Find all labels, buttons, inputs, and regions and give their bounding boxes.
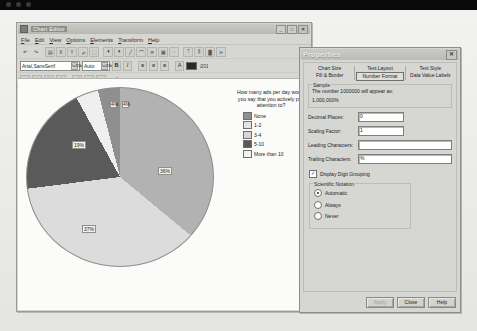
- bar-chart-icon[interactable]: ⬚: [89, 47, 99, 57]
- chart-legend[interactable]: How many ads per day would you say that …: [234, 89, 308, 159]
- spike-icon[interactable]: ⫼: [194, 47, 204, 57]
- menu-item-help[interactable]: Help: [148, 37, 159, 43]
- horizontal-bar-icon[interactable]: ⏵: [114, 47, 124, 57]
- grid-icon[interactable]: ▦: [158, 47, 168, 57]
- radio-never[interactable]: Never: [314, 212, 406, 220]
- legend-swatch-1-2: [243, 121, 252, 129]
- menu-bar: File Edit View Options Elements Transfor…: [17, 35, 311, 45]
- align-right-icon[interactable]: ≡: [160, 61, 169, 71]
- align-center-icon[interactable]: ≡: [149, 61, 158, 71]
- fill-color-swatch[interactable]: [186, 62, 197, 70]
- reference-line-icon[interactable]: ⍑: [183, 47, 193, 57]
- font-family-select[interactable]: Arial,SansSerif \u25be: [20, 61, 80, 71]
- sample-value: 1,000,000%: [312, 97, 448, 103]
- properties-dialog: Properties ✕ Chart Size Fill & Border Te…: [299, 47, 461, 313]
- legend-label-3-4: 3-4: [254, 132, 261, 138]
- pie-label-more-than-10[interactable]: 4%: [110, 101, 117, 108]
- trailing-characters-input[interactable]: %: [358, 154, 452, 164]
- mouse-cursor: [222, 308, 228, 310]
- pie-label-5-10[interactable]: 19%: [72, 141, 86, 149]
- bold-button[interactable]: B: [112, 61, 121, 71]
- legend-label-none: None: [254, 113, 266, 119]
- leading-characters-label: Leading Characters:: [308, 142, 358, 148]
- pie-chart[interactable]: 4% 4% 19% 36% 37%: [26, 87, 226, 272]
- redo-icon[interactable]: ↷: [31, 47, 41, 57]
- legend-items: None 1-2 3-4 5-10: [234, 112, 308, 158]
- field-trailing-characters: Trailing Characters: %: [308, 154, 452, 164]
- chart-editor-window: Chart Editor _ □ ✕ File Edit View Option…: [16, 22, 312, 312]
- properties-body: Chart Size Fill & Border Text Layout Num…: [303, 62, 457, 292]
- menu-item-edit[interactable]: Edit: [35, 37, 44, 43]
- border-style-icon[interactable]: \u2014: [199, 61, 209, 71]
- tab-text-layout[interactable]: Text Layout: [356, 65, 403, 72]
- radio-label-always: Always: [325, 202, 341, 208]
- apply-button[interactable]: Apply: [366, 297, 394, 308]
- menu-item-view[interactable]: View: [49, 37, 61, 43]
- trailing-characters-label: Trailing Characters:: [308, 156, 358, 162]
- pie-slices[interactable]: [26, 87, 214, 267]
- pie-label-1-2[interactable]: 36%: [158, 167, 172, 175]
- histogram-icon[interactable]: ▓: [205, 47, 215, 57]
- minimize-button[interactable]: _: [276, 25, 286, 34]
- y-axis-icon[interactable]: Y: [67, 47, 77, 57]
- legend-title: How many ads per day would you say that …: [234, 89, 308, 109]
- line-chart-icon[interactable]: ╱: [125, 47, 135, 57]
- step-chart-icon[interactable]: ≅: [147, 47, 157, 57]
- chart-canvas[interactable]: 4% 4% 19% 36% 37% How many ads per day w…: [18, 78, 310, 310]
- tab-number-format[interactable]: Number Format: [356, 72, 403, 81]
- font-size-select[interactable]: Auto \u25be: [82, 61, 110, 71]
- properties-title-bar[interactable]: Properties ✕: [301, 49, 459, 60]
- sample-caption: Sample: [312, 82, 331, 88]
- screen: Chart Editor _ □ ✕ File Edit View Option…: [0, 0, 477, 331]
- area-chart-icon[interactable]: ⌒: [136, 47, 146, 57]
- chart-editor-title-bar[interactable]: Chart Editor _ □ ✕: [18, 24, 310, 34]
- drop-line-icon[interactable]: ⌵: [169, 47, 179, 57]
- x-axis-icon[interactable]: X: [56, 47, 66, 57]
- tab-fill-border[interactable]: Fill & Border: [306, 72, 353, 79]
- menu-item-transform[interactable]: Transform: [118, 37, 143, 43]
- pie-label-none[interactable]: 4%: [122, 101, 129, 108]
- toolbar-primary: ↶ ↷ ▤ X Y ℘ ⬚ ⏴ ⏵ ╱ ⌒ ≅ ▦ ⌵ ⍑ ⫼ ▓ ⋗: [17, 45, 311, 59]
- close-dialog-button[interactable]: Close: [397, 297, 425, 308]
- radio-always[interactable]: Always: [314, 201, 406, 209]
- sample-description: The number 1000000 will appear as:: [312, 88, 448, 94]
- chevron-down-icon[interactable]: \u25be: [71, 62, 78, 70]
- close-button[interactable]: ✕: [298, 25, 308, 34]
- tab-data-value-labels[interactable]: Data Value Labels: [407, 72, 454, 79]
- data-table-icon[interactable]: ▤: [45, 47, 55, 57]
- properties-close-icon[interactable]: ✕: [446, 50, 457, 60]
- undo-icon[interactable]: ↶: [20, 47, 30, 57]
- explode-slice-icon[interactable]: ⋗: [216, 47, 226, 57]
- italic-button[interactable]: I: [123, 61, 132, 71]
- tab-group-size: Chart Size Fill & Border: [306, 65, 353, 81]
- chart-editor-window-controls: _ □ ✕: [276, 25, 308, 34]
- help-button[interactable]: Help: [428, 297, 456, 308]
- radio-label-automatic: Automatic: [325, 190, 347, 196]
- scaling-factor-input[interactable]: 1: [358, 126, 404, 136]
- decimal-places-input[interactable]: 0: [358, 112, 404, 122]
- check-icon: ✓: [309, 170, 317, 178]
- stacked-bar-icon[interactable]: ⏴: [103, 47, 113, 57]
- chevron-down-icon[interactable]: \u25be: [101, 62, 108, 70]
- display-digit-grouping-checkbox[interactable]: ✓ Display Digit Grouping: [309, 170, 456, 178]
- maximize-button[interactable]: □: [287, 25, 297, 34]
- scientific-notation-group: Scientific Notation Automatic Always Nev…: [309, 183, 411, 229]
- menu-item-options[interactable]: Options: [66, 37, 85, 43]
- properties-icon[interactable]: ℘: [78, 47, 88, 57]
- tab-text-style[interactable]: Text Style: [407, 65, 454, 72]
- font-size-value: Auto: [84, 63, 94, 69]
- align-left-icon[interactable]: ≡: [138, 61, 147, 71]
- menu-item-elements[interactable]: Elements: [90, 37, 113, 43]
- text-color-button[interactable]: A: [175, 61, 184, 71]
- tab-group-format: Text Layout Number Format: [356, 65, 403, 81]
- menu-item-file[interactable]: File: [21, 37, 30, 43]
- radio-automatic[interactable]: Automatic: [314, 189, 406, 197]
- pie-label-3-4[interactable]: 37%: [82, 225, 96, 233]
- leading-characters-input[interactable]: [358, 140, 452, 150]
- radio-icon-automatic: [314, 189, 322, 197]
- tab-chart-size[interactable]: Chart Size: [306, 65, 353, 72]
- properties-title: Properties: [303, 51, 341, 58]
- chart-editor-app-icon: [20, 25, 28, 33]
- legend-swatch-3-4: [243, 131, 252, 139]
- legend-swatch-more-than-10: [243, 150, 252, 158]
